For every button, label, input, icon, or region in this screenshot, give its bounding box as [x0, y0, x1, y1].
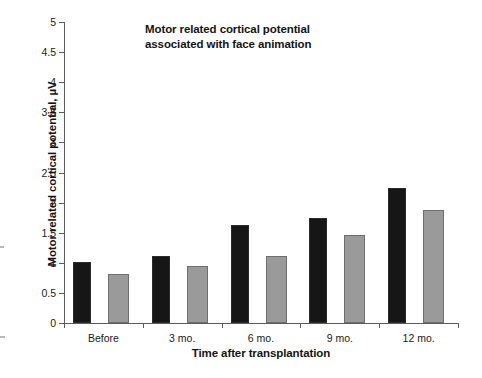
- chart-figure: Motor related cortical potential associa…: [0, 0, 482, 378]
- y-tick-mark: [59, 263, 64, 264]
- y-tick-label: 0.5: [41, 287, 56, 299]
- y-tick-label: 5: [50, 16, 56, 28]
- bar-light-3-mo-: [187, 266, 208, 323]
- scan-artifact-left-upper: [0, 246, 4, 248]
- plot-area: 00.511.522.533.544.55 Before3 mo.6 mo.9 …: [64, 22, 458, 323]
- x-tick-label: 6 mo.: [248, 332, 274, 344]
- y-tick-label: 4.5: [41, 46, 56, 58]
- y-tick-label: 1: [50, 257, 56, 269]
- y-tick-mark: [59, 203, 64, 204]
- x-axis-title: Time after transplantation: [64, 347, 458, 359]
- y-tick-mark: [59, 112, 64, 113]
- x-tick-label: Before: [88, 332, 119, 344]
- y-tick-label: 3: [50, 136, 56, 148]
- x-tick-label: 9 mo.: [327, 332, 353, 344]
- bar-light-9-mo-: [344, 235, 365, 323]
- y-tick-mark: [59, 142, 64, 143]
- bar-light-before: [108, 274, 129, 323]
- x-tick-mark: [300, 323, 301, 328]
- bar-dark-12-mo-: [388, 188, 406, 323]
- y-tick-mark: [59, 233, 64, 234]
- y-tick-label: 1.5: [41, 227, 56, 239]
- bar-dark-6-mo-: [231, 225, 249, 323]
- x-tick-mark: [458, 323, 459, 328]
- y-tick-label: 2: [50, 197, 56, 209]
- x-tick-label: 3 mo.: [169, 332, 195, 344]
- y-tick-mark: [59, 173, 64, 174]
- y-tick-label: 2.5: [41, 167, 56, 179]
- y-tick-mark: [59, 22, 64, 23]
- y-tick-mark: [59, 52, 64, 53]
- scan-artifact-left-lower: [0, 336, 5, 338]
- x-tick-mark: [379, 323, 380, 328]
- y-tick-label: 4: [50, 76, 56, 88]
- bar-dark-3-mo-: [152, 256, 170, 323]
- bar-light-6-mo-: [266, 256, 287, 323]
- bar-dark-9-mo-: [309, 218, 327, 323]
- x-tick-mark: [143, 323, 144, 328]
- y-tick-label: 0: [50, 317, 56, 329]
- bar-light-12-mo-: [423, 210, 444, 323]
- x-tick-mark: [64, 323, 65, 328]
- x-tick-label: 12 mo.: [403, 332, 435, 344]
- y-tick-mark: [59, 293, 64, 294]
- bar-dark-before: [73, 262, 91, 323]
- y-tick-mark: [59, 82, 64, 83]
- x-axis-line: [64, 323, 458, 324]
- y-axis-line: [64, 22, 65, 324]
- y-tick-label: 3.5: [41, 106, 56, 118]
- x-tick-mark: [222, 323, 223, 328]
